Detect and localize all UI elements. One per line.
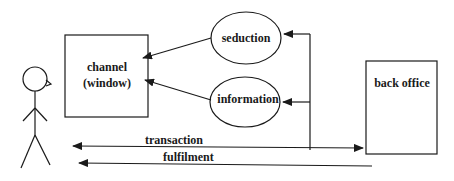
figure-right-leg	[35, 135, 50, 165]
transaction-edge: transaction	[73, 133, 363, 148]
channel-label-line2: (window)	[83, 76, 131, 90]
figure-left-arm	[23, 108, 35, 121]
information-to-channel-arrow	[145, 80, 211, 100]
seduction-to-channel-arrow	[143, 38, 211, 58]
figure-head	[23, 67, 47, 91]
channel-label-line1: channel	[87, 60, 128, 74]
customer-stick-figure	[21, 67, 51, 168]
fulfilment-label: fulfilment	[163, 150, 214, 164]
information-label: information	[217, 92, 279, 106]
back-office-box	[366, 61, 437, 154]
back-office-node: back office	[366, 61, 437, 154]
transaction-arrow	[73, 146, 363, 148]
back-office-label: back office	[374, 76, 430, 90]
transaction-label: transaction	[145, 133, 203, 147]
fulfilment-edge: fulfilment	[79, 150, 372, 166]
figure-left-leg	[21, 135, 35, 168]
figure-right-arm	[35, 108, 47, 121]
information-node: information	[210, 77, 280, 127]
fulfilment-arrow	[79, 163, 372, 166]
channel-node: channel (window)	[65, 35, 148, 117]
seduction-label: seduction	[222, 31, 271, 45]
diagram-canvas: channel (window) seduction information b…	[0, 0, 454, 181]
seduction-node: seduction	[211, 12, 281, 64]
